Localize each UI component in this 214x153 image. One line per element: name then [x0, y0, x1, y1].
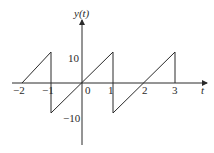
x-tick-label: −1: [42, 84, 54, 96]
y-tick-label: −10: [63, 112, 81, 124]
y-tick-label: 10: [68, 52, 80, 64]
x-tick-label: 1: [108, 84, 114, 96]
y-axis-label: y(t): [73, 7, 90, 20]
x-tick-label: −2: [13, 84, 25, 96]
x-tick-label: 0: [85, 84, 91, 96]
x-tick-label: 2: [142, 84, 148, 96]
x-tick-label: 3: [172, 84, 178, 96]
x-axis-label: t: [201, 84, 205, 96]
sawtooth-chart: y(t) t −2 −1 0 1 2 3 10 −10: [0, 0, 214, 153]
